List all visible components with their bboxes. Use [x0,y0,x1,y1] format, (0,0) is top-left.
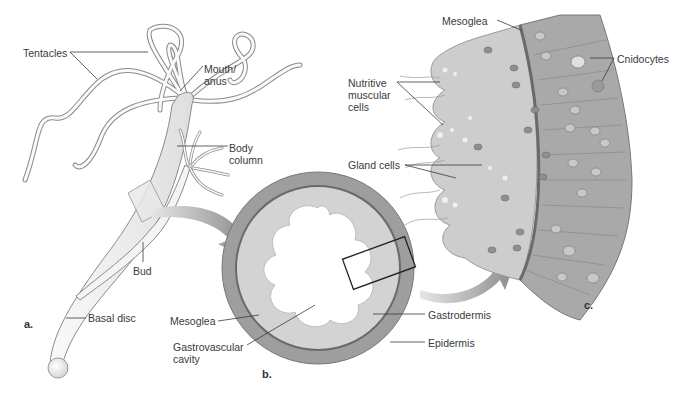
label-gastrovascular-cavity: Gastrovascular cavity [173,341,244,365]
hydra-cross-section: /* no-op */ [222,172,415,364]
label-mesoglea-c: Mesoglea [442,15,488,27]
label-mesoglea-b: Mesoglea [170,315,216,327]
hydra-anatomy-figure: /* no-op */ [0,0,692,399]
label-nutritive-muscular-cells: Nutritive muscular cells [348,77,391,113]
label-mouth-anus: Mouth/ anus [204,63,236,87]
panel-label-a: a. [24,318,33,330]
label-epidermis: Epidermis [428,337,475,349]
tissue-detail [398,15,632,320]
label-basal-disc: Basal disc [88,312,136,324]
label-gastrodermis: Gastrodermis [428,309,491,321]
panel-label-b: b. [262,368,272,380]
label-body-column: Body column [229,142,263,166]
panel-label-c: c. [584,299,593,311]
label-gland-cells: Gland cells [348,159,400,171]
label-cnidocytes: Cnidocytes [617,53,669,65]
diagram-artwork: /* no-op */ [0,0,692,399]
label-tentacles: Tentacles [23,47,67,59]
label-bud: Bud [133,265,152,277]
